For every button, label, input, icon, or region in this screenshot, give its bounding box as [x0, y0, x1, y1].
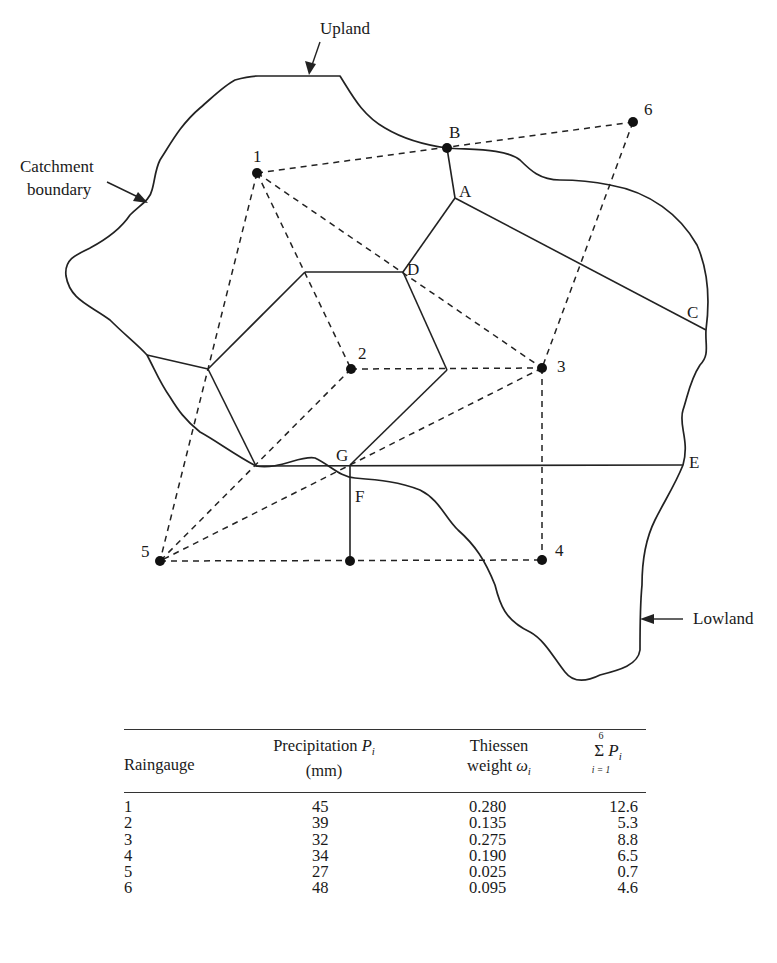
upland-callout: Upland — [305, 19, 371, 75]
table-row: 5 27 0.025 0.7 — [124, 864, 646, 880]
table-body: 1 45 0.280 12.6 2 39 0.135 5.3 3 32 0.27… — [124, 793, 646, 897]
thiessen-diagram: 1 2 3 4 5 6 A B C D E F G Upland Catchme… — [0, 0, 777, 700]
sum-lower-limit: i = 1 — [564, 765, 638, 776]
raingauge-6-marker — [628, 117, 638, 127]
lowland-label: Lowland — [693, 609, 754, 628]
vertex-d-label: D — [407, 260, 419, 279]
vertex-a-label: A — [459, 182, 472, 201]
table-row: 3 32 0.275 8.8 — [124, 832, 646, 848]
raingauge-4-label: 4 — [555, 541, 564, 560]
table-row: 4 34 0.190 6.5 — [124, 848, 646, 864]
sum-symbol: P — [608, 741, 618, 760]
header-precipitation-text: Precipitation — [273, 736, 361, 755]
cell-weighted: 4.6 — [617, 880, 638, 896]
raingauge-3-marker — [537, 363, 547, 373]
header-thiessen-weight: Thiessen weight ωi — [444, 736, 554, 781]
vertex-f-label: F — [355, 487, 364, 506]
vertex-c-label: C — [687, 303, 698, 322]
thiessen-polygon-edges — [147, 148, 706, 561]
table-row: 1 45 0.280 12.6 — [124, 799, 646, 815]
raingauge-1-label: 1 — [253, 147, 262, 166]
header-weight-line2: weight — [467, 756, 516, 775]
header-weight-subscript: i — [528, 765, 531, 777]
table-row: 2 39 0.135 5.3 — [124, 815, 646, 831]
vertex-b-label: B — [449, 123, 460, 142]
raingauges — [155, 117, 638, 566]
table-header: Raingauge Precipitation Pi (mm) Thiessen… — [124, 730, 646, 792]
vertex-f-foot-marker — [345, 556, 355, 566]
raingauge-4-marker — [537, 555, 547, 565]
header-raingauge: Raingauge — [124, 755, 195, 775]
header-weight-symbol: ω — [516, 756, 528, 775]
header-precipitation-subscript: i — [372, 745, 375, 757]
lowland-callout: Lowland — [640, 609, 754, 628]
upland-label: Upland — [320, 19, 371, 38]
catchment-label-line2: boundary — [27, 180, 92, 199]
raingauge-6-label: 6 — [644, 100, 653, 119]
thiessen-weights-table: Raingauge Precipitation Pi (mm) Thiessen… — [124, 729, 646, 897]
header-precipitation-unit: (mm) — [306, 761, 343, 780]
catchment-boundary — [66, 76, 708, 680]
cell-gauge: 6 — [124, 880, 132, 896]
cell-weight: 0.095 — [469, 880, 506, 896]
header-weight-line1: Thiessen — [470, 736, 529, 755]
gauge-connection-lines — [160, 122, 633, 561]
upland-arrow-icon — [305, 61, 316, 75]
raingauge-2-label: 2 — [358, 344, 367, 363]
vertex-e-label: E — [689, 453, 699, 472]
raingauge-5-label: 5 — [141, 542, 150, 561]
raingauge-5-marker — [155, 556, 165, 566]
sum-subscript: i — [619, 750, 622, 762]
catchment-arrow-icon — [133, 192, 148, 203]
vertex-b-marker — [442, 143, 452, 153]
header-precipitation-symbol: P — [362, 736, 372, 755]
header-precipitation: Precipitation Pi (mm) — [254, 736, 394, 781]
sum-sigma-icon: Σ — [594, 741, 604, 760]
table-row: 6 48 0.095 4.6 — [124, 880, 646, 896]
catchment-boundary-callout: Catchment boundary — [20, 157, 148, 203]
raingauge-3-label: 3 — [557, 357, 566, 376]
header-weighted-sum: 6 Σ Pi i = 1 — [578, 730, 638, 776]
lowland-arrow-icon — [640, 614, 654, 624]
raingauge-1-marker — [252, 168, 262, 178]
catchment-label-line1: Catchment — [20, 157, 94, 176]
raingauge-2-marker — [346, 364, 356, 374]
vertex-g-label: G — [336, 446, 348, 465]
cell-precipitation: 48 — [312, 880, 329, 896]
